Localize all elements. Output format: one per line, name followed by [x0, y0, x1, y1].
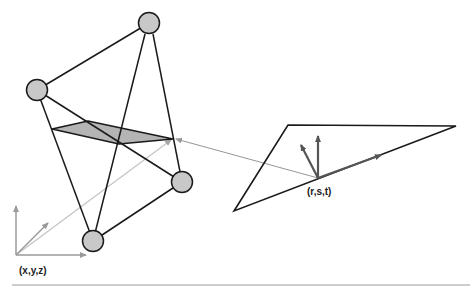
parametric-coords-label: (r,s,t)	[307, 186, 331, 197]
node-right	[172, 172, 193, 193]
diagram-canvas: (x,y,z) (r,s,t)	[0, 0, 473, 290]
node-top	[139, 13, 160, 34]
world-coords-label: (x,y,z)	[19, 265, 47, 276]
binormal-vector-arrow	[301, 145, 318, 178]
tangent-vector-arrow	[318, 155, 381, 178]
mapping-ray	[176, 139, 318, 178]
node-bottom	[83, 231, 104, 252]
node-left	[27, 80, 48, 101]
slice-plane	[52, 121, 173, 144]
local-vectors	[301, 136, 381, 178]
axis-z-arrow	[16, 223, 48, 255]
